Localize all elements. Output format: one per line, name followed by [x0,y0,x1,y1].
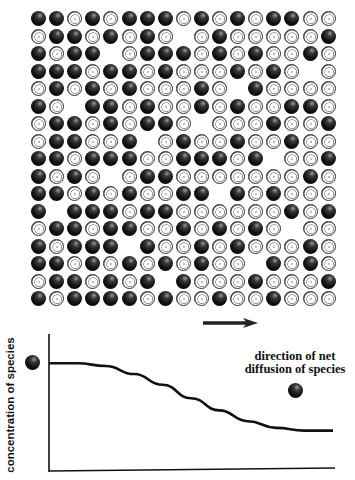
black-particle [103,274,118,289]
black-particle [103,204,118,219]
white-particle [248,204,263,219]
white-particle [212,116,227,131]
black-particle [31,239,46,254]
white-particle [230,46,245,61]
white-particle [230,256,245,271]
white-particle [158,186,173,201]
black-particle [31,169,46,184]
black-particle [248,221,263,236]
white-particle [194,221,209,236]
white-particle [176,11,191,26]
black-particle [67,274,82,289]
black-particle [248,151,263,166]
black-particle [140,116,155,131]
white-particle [194,29,209,44]
black-particle [248,81,263,96]
black-particle [85,11,100,26]
black-particle [103,99,118,114]
white-particle [321,239,336,254]
white-particle [140,151,155,166]
black-particle [67,169,82,184]
black-particle [248,46,263,61]
black-particle [140,99,155,114]
white-particle [122,274,137,289]
white-particle [266,204,281,219]
black-particle [49,11,64,26]
black-particle [194,151,209,166]
white-particle [140,186,155,201]
white-particle [176,256,191,271]
black-particle [248,274,263,289]
white-particle [176,204,191,219]
white-particle [303,186,318,201]
white-particle [303,291,318,306]
black-particle [67,29,82,44]
white-particle [85,134,100,149]
white-particle [321,291,336,306]
white-particle [284,64,299,79]
white-particle [212,11,227,26]
white-particle [230,151,245,166]
white-particle [67,186,82,201]
white-particle [140,256,155,271]
white-particle [31,29,46,44]
white-particle [103,256,118,271]
white-particle [103,11,118,26]
white-particle [49,169,64,184]
black-particle [49,81,64,96]
black-particle [158,116,173,131]
white-particle [158,221,173,236]
white-particle [212,64,227,79]
white-particle [194,169,209,184]
black-particle [230,64,245,79]
black-particle [176,274,191,289]
black-particle [321,274,336,289]
black-particle [176,221,191,236]
white-particle [31,221,46,236]
white-particle [67,256,82,271]
black-particle [321,29,336,44]
white-particle [303,81,318,96]
white-particle [284,169,299,184]
black-particle [230,186,245,201]
white-particle [266,221,281,236]
black-particle [31,99,46,114]
white-particle [321,134,336,149]
white-particle [158,151,173,166]
white-particle [248,134,263,149]
black-particle [103,116,118,131]
white-particle [49,239,64,254]
white-particle [248,29,263,44]
white-particle [31,134,46,149]
black-particle [49,64,64,79]
black-particle [67,204,82,219]
white-particle [103,134,118,149]
black-particle [122,186,137,201]
black-particle [49,256,64,271]
white-particle [212,256,227,271]
black-particle [284,204,299,219]
white-particle [122,169,137,184]
black-particle [85,151,100,166]
white-particle [248,169,263,184]
black-particle [122,256,137,271]
white-particle [303,221,318,236]
white-particle [303,274,318,289]
white-particle [49,46,64,61]
black-particle [140,169,155,184]
black-particle [158,169,173,184]
white-particle [303,151,318,166]
black-particle [321,116,336,131]
white-particle [248,11,263,26]
white-particle [85,29,100,44]
black-particle [85,46,100,61]
black-particle [140,29,155,44]
black-particle [67,221,82,236]
white-particle [230,291,245,306]
black-particle [266,11,281,26]
black-particle [49,186,64,201]
white-particle [103,81,118,96]
white-particle [266,46,281,61]
white-particle [321,81,336,96]
white-particle [266,274,281,289]
